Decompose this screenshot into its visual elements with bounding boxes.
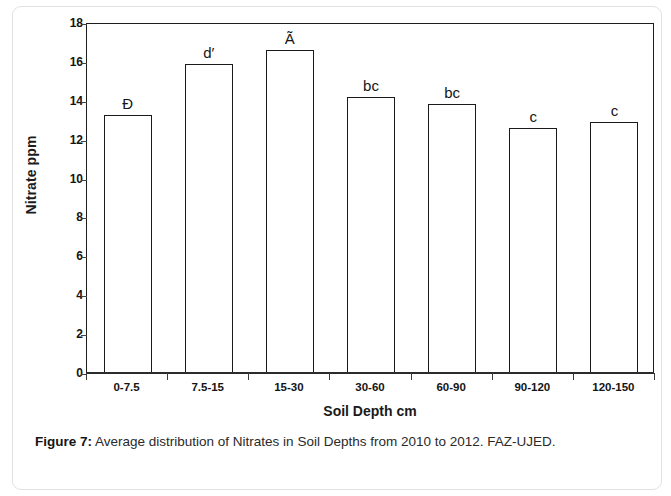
y-axis-tick-label: 12 [51,133,83,147]
x-axis-title: Soil Depth cm [86,403,654,419]
bar-group: c [574,24,655,372]
bar-significance-label: Ã [285,30,295,47]
y-axis-tick-label: 10 [51,172,83,186]
y-axis-tick-mark [81,180,87,181]
bar [185,64,233,372]
x-axis-tick-mark [654,373,655,380]
bar-group: d′ [168,24,249,372]
x-axis-tick-label: 7.5-15 [191,381,224,393]
y-axis-tick-label: 0 [51,366,83,380]
bar-significance-label: Đ [122,95,133,112]
bar-group: Đ [87,24,168,372]
x-axis-tick-label: 30-60 [355,381,384,393]
bar [590,122,638,372]
bars-layer: Đd′Ãbcbccc [87,24,653,372]
y-axis-tick-label: 18 [51,16,83,30]
bar-significance-label: c [611,102,619,119]
x-axis-tick-mark [492,373,493,380]
figure-caption: Figure 7: Average distribution of Nitrat… [35,432,643,452]
x-axis-tick-marks [86,373,654,381]
x-axis-tick-mark [86,373,87,380]
x-axis-tick-mark [573,373,574,380]
plot-area: Đd′Ãbcbccc [86,23,654,373]
bar [428,104,476,372]
y-axis-tick-mark [81,218,87,219]
x-axis-tick-mark [329,373,330,380]
y-axis-tick-mark [81,63,87,64]
x-axis-tick-label: 0-7.5 [113,381,139,393]
bar-chart: Nitrate ppm 024681012141618 Đd′Ãbcbccc 0… [13,7,663,421]
x-axis-tick-mark [167,373,168,380]
y-axis-tick-mark [81,257,87,258]
y-axis-tick-mark [81,335,87,336]
x-axis-tick-label: 60-90 [436,381,465,393]
figure-card: Nitrate ppm 024681012141618 Đd′Ãbcbccc 0… [12,6,662,490]
bar [104,115,152,372]
y-axis-tick-label: 16 [51,55,83,69]
x-axis-tick-label: 120-150 [592,381,634,393]
x-axis-tick-label: 90-120 [514,381,550,393]
figure-caption-text: Average distribution of Nitrates in Soil… [92,434,555,449]
x-axis-tick-labels: 0-7.57.5-1515-3030-6060-9090-120120-150 [86,381,654,401]
y-axis-tick-mark [81,102,87,103]
bar-significance-label: d′ [203,44,214,61]
bar-group: bc [330,24,411,372]
x-axis-tick-mark [411,373,412,380]
bar [266,50,314,372]
x-axis-tick-label: 15-30 [274,381,303,393]
bar-group: bc [412,24,493,372]
y-axis-tick-label: 4 [51,288,83,302]
y-axis-tick-mark [81,296,87,297]
x-axis-tick-mark [248,373,249,380]
figure-caption-label: Figure 7: [35,434,92,449]
y-axis-tick-label: 8 [51,210,83,224]
y-axis-tick-labels: 024681012141618 [51,17,83,383]
y-axis-tick-label: 2 [51,327,83,341]
y-axis-tick-mark [81,24,87,25]
y-axis-title: Nitrate ppm [23,95,39,255]
bar [347,97,395,372]
y-axis-tick-label: 6 [51,249,83,263]
y-axis-tick-label: 14 [51,94,83,108]
bar-group: Ã [249,24,330,372]
y-axis-tick-mark [81,141,87,142]
bar-significance-label: bc [363,77,379,94]
bar [509,128,557,372]
bar-significance-label: c [530,108,538,125]
bar-significance-label: bc [444,84,460,101]
bar-group: c [493,24,574,372]
